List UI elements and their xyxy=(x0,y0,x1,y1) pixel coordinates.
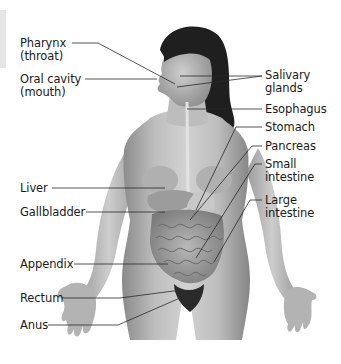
label-rectum-line1: Rectum xyxy=(20,292,63,305)
label-liver: Liver xyxy=(20,182,48,195)
label-gallbladder: Gallbladder xyxy=(20,206,85,219)
label-small-intestine-line2: intestine xyxy=(265,171,314,184)
label-appendix-line1: Appendix xyxy=(20,258,73,271)
label-pancreas: Pancreas xyxy=(265,140,316,153)
label-appendix: Appendix xyxy=(20,258,73,271)
esophagus xyxy=(187,102,188,196)
label-oral-cavity-line2: (mouth) xyxy=(20,86,81,99)
label-large-intestine-line2: intestine xyxy=(265,207,314,220)
label-anus: Anus xyxy=(20,319,48,332)
label-esophagus-line1: Esophagus xyxy=(265,103,327,116)
label-salivary-glands-line2: glands xyxy=(265,82,310,95)
label-anus-line1: Anus xyxy=(20,319,48,332)
label-small-intestine: Small intestine xyxy=(265,158,314,184)
label-pharynx-line2: (throat) xyxy=(20,50,66,63)
label-oral-cavity: Oral cavity (mouth) xyxy=(20,73,81,99)
label-liver-line1: Liver xyxy=(20,182,48,195)
label-stomach-line1: Stomach xyxy=(265,121,315,134)
label-pharynx: Pharynx (throat) xyxy=(20,37,66,63)
label-salivary-glands: Salivary glands xyxy=(265,69,310,95)
label-rectum: Rectum xyxy=(20,292,63,305)
label-esophagus: Esophagus xyxy=(265,103,327,116)
digestive-system-diagram: Pharynx (throat) Oral cavity (mouth) Liv… xyxy=(0,0,341,364)
left-hand xyxy=(58,283,97,337)
right-hand xyxy=(284,287,317,332)
label-pancreas-line1: Pancreas xyxy=(265,140,316,153)
label-gallbladder-line1: Gallbladder xyxy=(20,206,85,219)
label-large-intestine: Large intestine xyxy=(265,194,314,220)
label-stomach: Stomach xyxy=(265,121,315,134)
